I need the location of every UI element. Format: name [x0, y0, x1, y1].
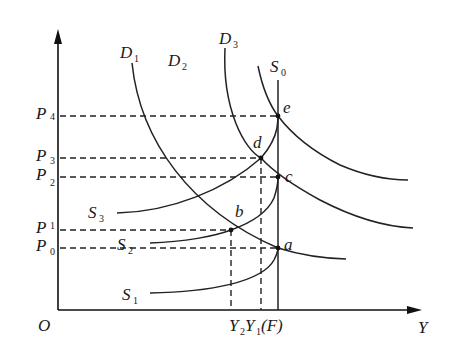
- price-label-p3: P 3: [35, 146, 55, 166]
- svg-text:S: S: [122, 285, 131, 304]
- upper-demand-curve: [258, 66, 408, 180]
- price-label-p0: P 0: [35, 236, 55, 257]
- svg-text:1: 1: [134, 53, 139, 64]
- svg-text:4: 4: [50, 111, 55, 122]
- svg-text:1: 1: [133, 295, 138, 306]
- label-d: d: [253, 133, 262, 152]
- label-s2: S 2: [117, 235, 133, 256]
- point-c: [276, 175, 281, 180]
- svg-text:3: 3: [233, 39, 238, 50]
- label-a: a: [284, 235, 293, 254]
- label-d1: D 1: [119, 43, 139, 64]
- svg-text:P: P: [35, 165, 46, 184]
- svg-text:(F): (F): [261, 316, 283, 335]
- svg-text:S: S: [88, 203, 97, 222]
- label-d3: D 3: [218, 29, 238, 50]
- svg-text:3: 3: [99, 213, 104, 224]
- price-label-p4: P 4: [35, 104, 55, 123]
- y-axis-arrow-icon: [54, 29, 62, 44]
- label-e: e: [283, 98, 291, 117]
- svg-text:P: P: [35, 104, 46, 123]
- svg-text:D: D: [218, 29, 232, 48]
- origin-label: O: [38, 316, 50, 335]
- svg-text:1: 1: [50, 220, 55, 231]
- price-label-p1: P 1: [35, 218, 55, 237]
- svg-text:2: 2: [128, 245, 133, 256]
- x-axis-label: Y: [418, 318, 429, 337]
- price-label-p2: P 2: [35, 165, 55, 188]
- svg-text:2: 2: [182, 61, 187, 72]
- svg-text:Y: Y: [229, 316, 240, 335]
- s1-supply-curve: [150, 248, 278, 293]
- label-c: c: [285, 167, 293, 186]
- svg-text:P: P: [35, 146, 46, 165]
- x-axis-arrow-icon: [407, 306, 422, 314]
- point-a: [276, 246, 281, 251]
- svg-text:P: P: [35, 236, 46, 255]
- label-d2: D 2: [167, 51, 187, 72]
- svg-text:3: 3: [50, 155, 55, 166]
- label-b: b: [235, 202, 244, 221]
- point-b: [229, 228, 234, 233]
- ad-as-diagram: a b c d e P 4 P 3 P 2 P 1 P 0 D 1 D 2 D …: [0, 0, 454, 353]
- s3-supply-curve: [117, 116, 278, 213]
- label-s0: S 0: [270, 57, 286, 78]
- svg-text:0: 0: [281, 67, 286, 78]
- svg-text:D: D: [119, 43, 133, 62]
- svg-text:2: 2: [50, 177, 55, 188]
- svg-text:0: 0: [50, 246, 55, 257]
- svg-text:P: P: [35, 218, 46, 237]
- label-s3: S 3: [88, 203, 104, 224]
- svg-text:Y: Y: [245, 316, 256, 335]
- output-labels: Y 2 Y 1 (F): [229, 316, 283, 337]
- svg-text:S: S: [117, 235, 126, 254]
- label-s1: S 1: [122, 285, 138, 306]
- svg-text:S: S: [270, 57, 279, 76]
- point-d: [259, 156, 264, 161]
- point-e: [276, 114, 281, 119]
- svg-text:D: D: [167, 51, 181, 70]
